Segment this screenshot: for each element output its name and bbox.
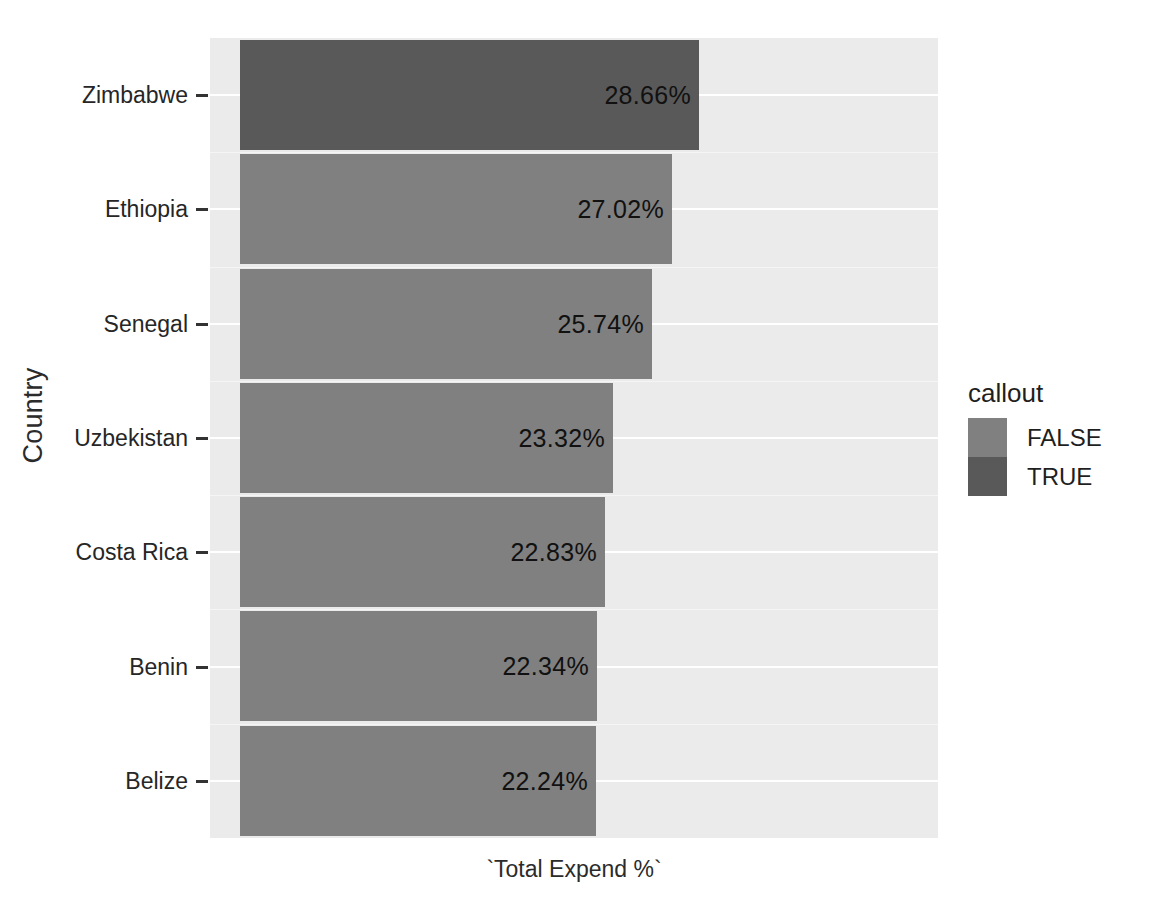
bar-value-label: 22.83% — [510, 538, 597, 567]
legend-item-label: TRUE — [1027, 465, 1092, 489]
y-axis-tick-label: Senegal — [104, 313, 188, 336]
y-axis-tick-label: Uzbekistan — [74, 427, 188, 450]
legend: callout FALSETRUE — [968, 380, 1138, 496]
y-axis-tick-mark-icon — [196, 94, 208, 97]
legend-swatch-icon — [968, 418, 1007, 457]
gridline-minor — [210, 724, 938, 725]
y-axis-tick-labels: ZimbabweEthiopiaSenegalUzbekistanCosta R… — [60, 38, 208, 838]
legend-item-label: FALSE — [1027, 426, 1102, 450]
y-axis-tick-label: Belize — [125, 770, 188, 793]
bar-value-label: 22.24% — [501, 767, 588, 796]
bar-value-label: 22.34% — [502, 652, 589, 681]
x-axis-title: `Total Expend %` — [210, 856, 938, 883]
y-axis-tick-mark-icon — [196, 208, 208, 211]
gridline-minor — [210, 152, 938, 153]
bar[interactable]: 25.74% — [240, 269, 652, 379]
legend-item[interactable]: FALSE — [968, 418, 1138, 457]
gridline-minor — [210, 609, 938, 610]
gridline-minor — [210, 267, 938, 268]
y-axis-tick-label: Benin — [129, 656, 188, 679]
legend-item[interactable]: TRUE — [968, 457, 1138, 496]
y-axis-tick-label: Ethiopia — [105, 198, 188, 221]
y-axis-tick-mark-icon — [196, 551, 208, 554]
bar[interactable]: 22.34% — [240, 611, 597, 721]
legend-title: callout — [968, 380, 1138, 406]
y-axis-title: Country — [18, 336, 49, 496]
y-axis-tick-mark-icon — [196, 437, 208, 440]
y-axis-tick-mark-icon — [196, 666, 208, 669]
bar-value-label: 27.02% — [577, 195, 664, 224]
y-axis-tick-mark-icon — [196, 323, 208, 326]
legend-entries: FALSETRUE — [968, 418, 1138, 496]
bar[interactable]: 22.83% — [240, 497, 605, 607]
bar[interactable]: 27.02% — [240, 154, 672, 264]
y-axis-tick-label: Costa Rica — [76, 541, 188, 564]
bar[interactable]: 23.32% — [240, 383, 613, 493]
bar-chart: Country ZimbabweEthiopiaSenegalUzbekista… — [0, 0, 1153, 915]
bar-value-label: 25.74% — [557, 310, 644, 339]
plot-panel: 28.66%27.02%25.74%23.32%22.83%22.34%22.2… — [210, 38, 938, 838]
gridline-minor — [210, 381, 938, 382]
legend-swatch-icon — [968, 457, 1007, 496]
y-axis-tick-label: Zimbabwe — [82, 84, 188, 107]
bar[interactable]: 22.24% — [240, 726, 596, 836]
bar-value-label: 23.32% — [518, 424, 605, 453]
gridline-minor — [210, 495, 938, 496]
bar-value-label: 28.66% — [604, 81, 691, 110]
bar[interactable]: 28.66% — [240, 40, 699, 150]
y-axis-tick-mark-icon — [196, 780, 208, 783]
